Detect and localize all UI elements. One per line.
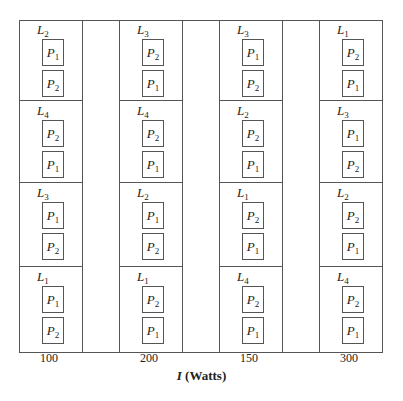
column-panel: L3P1P2L2P2P1L1P2P1L4P2P1 <box>219 20 283 353</box>
subplot-box-top: P2 <box>142 286 164 313</box>
label-subscript: 3 <box>244 29 249 39</box>
plot-block: L1P1P2 <box>20 267 82 353</box>
subplot-letter: P <box>247 157 255 172</box>
subplot-letter: P <box>47 45 55 60</box>
subplot-letter: P <box>47 157 55 172</box>
subplot-letter: P <box>47 76 55 91</box>
subplot-subscript: 2 <box>355 299 360 309</box>
subplot-subscript: 1 <box>255 164 260 174</box>
subplot-box-top: P1 <box>42 286 64 313</box>
subplot-box-bottom: P1 <box>242 233 264 260</box>
subplot-subscript: 1 <box>255 330 260 340</box>
axis-unit: (Watts) <box>185 368 226 383</box>
subplot-box-bottom: P2 <box>42 233 64 260</box>
label-subscript: 4 <box>344 276 349 286</box>
subplot-letter: P <box>47 323 55 338</box>
subplot-letter: P <box>147 45 155 60</box>
column-tick-label: 200 <box>117 351 181 366</box>
subplot-letter: P <box>247 45 255 60</box>
label-subscript: 2 <box>344 192 349 202</box>
plot-block: L4P2P1 <box>320 267 382 353</box>
subplot-subscript: 2 <box>255 299 260 309</box>
plot-block: L2P2P1 <box>220 101 282 183</box>
label-subscript: 1 <box>244 192 249 202</box>
subplot-letter: P <box>347 157 355 172</box>
subplot-letter: P <box>347 208 355 223</box>
subplot-subscript: 2 <box>55 330 60 340</box>
subplot-box-top: P2 <box>342 39 364 66</box>
label-subscript: 4 <box>44 110 49 120</box>
column-tick-label: 150 <box>217 351 281 366</box>
subplot-box-top: P2 <box>342 202 364 229</box>
axis-title: I (Watts) <box>0 368 403 384</box>
subplot-subscript: 1 <box>55 164 60 174</box>
subplot-box-bottom: P1 <box>142 151 164 178</box>
label-subscript: 2 <box>144 192 149 202</box>
column-panel: L1P2P1L3P1P2L2P2P1L4P2P1 <box>319 20 383 353</box>
subplot-subscript: 1 <box>155 164 160 174</box>
subplot-letter: P <box>347 323 355 338</box>
subplot-letter: P <box>247 126 255 141</box>
subplot-letter: P <box>347 239 355 254</box>
subplot-letter: P <box>147 76 155 91</box>
label-subscript: 3 <box>144 29 149 39</box>
subplot-subscript: 2 <box>355 52 360 62</box>
subplot-subscript: 2 <box>355 215 360 225</box>
subplot-letter: P <box>247 208 255 223</box>
subplot-letter: P <box>347 126 355 141</box>
column-panel: L2P1P2L4P2P1L3P1P2L1P1P2 <box>19 20 83 353</box>
subplot-box-top: P2 <box>242 202 264 229</box>
label-subscript: 4 <box>144 110 149 120</box>
subplot-subscript: 2 <box>155 246 160 256</box>
plot-block: L4P2P1 <box>220 267 282 353</box>
subplot-letter: P <box>47 126 55 141</box>
subplot-letter: P <box>247 292 255 307</box>
plot-block: L2P1P2 <box>120 183 182 267</box>
subplot-box-top: P1 <box>42 39 64 66</box>
plot-block: L3P2P1 <box>120 20 182 101</box>
subplot-letter: P <box>247 76 255 91</box>
subplot-box-top: P2 <box>342 286 364 313</box>
subplot-subscript: 1 <box>155 330 160 340</box>
column-tick-label: 300 <box>317 351 381 366</box>
subplot-box-top: P2 <box>242 286 264 313</box>
subplot-subscript: 2 <box>155 299 160 309</box>
subplot-box-bottom: P1 <box>42 151 64 178</box>
subplot-box-bottom: P2 <box>242 70 264 97</box>
subplot-box-bottom: P2 <box>142 233 164 260</box>
label-subscript: 1 <box>344 29 349 39</box>
plot-block: L2P2P1 <box>320 183 382 267</box>
subplot-subscript: 2 <box>155 52 160 62</box>
subplot-letter: P <box>47 239 55 254</box>
subplot-box-bottom: P2 <box>342 151 364 178</box>
column-panel: L3P2P1L4P2P1L2P1P2L1P2P1 <box>119 20 183 353</box>
subplot-letter: P <box>147 157 155 172</box>
subplot-box-top: P2 <box>142 120 164 147</box>
subplot-box-bottom: P1 <box>142 70 164 97</box>
plot-block: L2P1P2 <box>20 20 82 101</box>
plot-block: L1P2P1 <box>220 183 282 267</box>
plot-block: L3P1P2 <box>320 101 382 183</box>
subplot-box-bottom: P1 <box>342 317 364 344</box>
subplot-box-top: P2 <box>42 120 64 147</box>
subplot-box-top: P1 <box>242 39 264 66</box>
plot-block: L3P1P2 <box>20 183 82 267</box>
subplot-letter: P <box>147 323 155 338</box>
plot-block: L1P2P1 <box>120 267 182 353</box>
subplot-subscript: 1 <box>155 215 160 225</box>
label-subscript: 3 <box>44 192 49 202</box>
subplot-subscript: 2 <box>255 133 260 143</box>
subplot-letter: P <box>247 239 255 254</box>
subplot-subscript: 2 <box>355 164 360 174</box>
subplot-letter: P <box>47 292 55 307</box>
subplot-letter: P <box>347 45 355 60</box>
subplot-subscript: 1 <box>255 246 260 256</box>
subplot-box-bottom: P1 <box>142 317 164 344</box>
subplot-box-bottom: P2 <box>42 317 64 344</box>
label-subscript: 3 <box>344 110 349 120</box>
subplot-box-top: P2 <box>142 39 164 66</box>
subplot-subscript: 1 <box>155 83 160 93</box>
subplot-subscript: 2 <box>55 246 60 256</box>
subplot-subscript: 1 <box>355 330 360 340</box>
plot-block: L4P2P1 <box>20 101 82 183</box>
